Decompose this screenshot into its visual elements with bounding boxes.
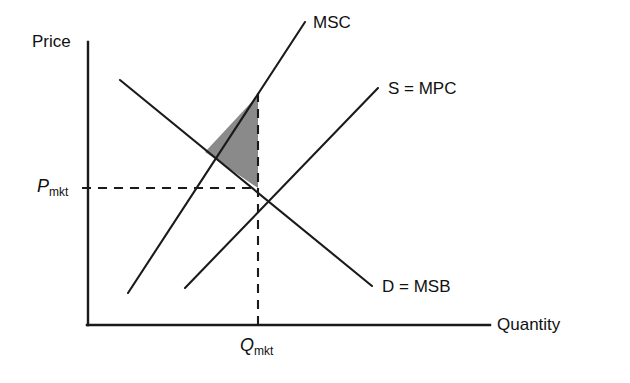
price-market-symbol: P xyxy=(37,176,49,196)
economics-diagram: Price Quantity MSC S = MPC D = MSB Pmkt … xyxy=(0,0,630,383)
demand-msb-curve-label: D = MSB xyxy=(382,278,451,295)
x-axis-label: Quantity xyxy=(497,316,560,333)
deadweight-loss-triangle xyxy=(205,95,258,188)
supply-mpc-curve-label: S = MPC xyxy=(388,80,457,97)
quantity-market-subscript: mkt xyxy=(254,344,273,358)
price-market-label: Pmkt xyxy=(37,177,68,195)
quantity-market-label: Qmkt xyxy=(240,336,273,354)
quantity-market-symbol: Q xyxy=(240,335,254,355)
msc-curve-label: MSC xyxy=(313,14,351,31)
y-axis-label: Price xyxy=(32,33,71,50)
msc-curve xyxy=(128,22,305,293)
price-market-subscript: mkt xyxy=(49,185,68,199)
